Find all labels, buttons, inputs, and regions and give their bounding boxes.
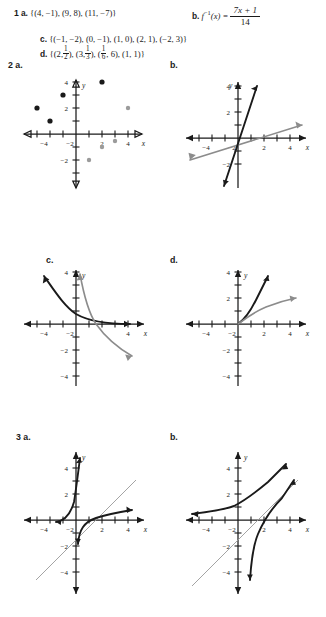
series-2c [43,274,132,361]
gray-inverse-2c [80,274,132,356]
chart-3a: −4 −2 2 4 2 4 −2 −4 x y [18,442,150,602]
chart-2b: −4 −2 2 4 2 4 −2 x y [180,68,312,190]
finv-arrow-down [247,574,253,580]
axes-2a: −4 −2 2 4 2 4 −2 x y [24,79,146,188]
ytick-2: 2 [227,491,231,499]
answer-1d-sep2: ), ( [91,49,101,59]
answer-1-number: 1 [14,8,19,18]
answer-1d-open: {(2, [50,49,63,59]
ytick-4: 4 [227,465,231,473]
dark-arrow-right [124,321,130,327]
dark-arrow-down [223,180,229,186]
answer-1c-letter: c. [40,34,47,44]
ytick-minus4: −4 [61,569,69,577]
ytick-minus2: −2 [61,347,69,355]
group-2d-label: d. [170,255,178,265]
dark-exponential-2c [44,276,130,324]
chart-2a: −4 −2 2 4 2 4 −2 x y [18,72,148,190]
group-2-label: 2 a. [8,60,23,70]
data-point [100,145,104,149]
xtick-4: 4 [126,140,130,148]
data-point [87,158,91,162]
ytick-2: 2 [65,491,69,499]
y-axis-label-2b-text: y [228,81,233,90]
axes-3b: −4 −2 2 4 2 4 −2 −4 x y [186,452,310,594]
ytick-minus2: −2 [223,543,231,551]
data-point [47,118,52,123]
x-axis-label-2b: x [305,143,310,152]
xtick-2: 2 [100,526,104,534]
f-arrow-left [192,511,198,517]
ytick-4: 4 [65,79,69,87]
y-axis-label-3b: y [243,453,248,462]
xtick-minus2: −2 [228,526,236,534]
dark-inverse-3a [78,510,132,544]
ytick-minus4: −4 [61,373,69,381]
ytick-minus4: −4 [223,373,231,381]
y-axis-label-3a: y [81,453,86,462]
dark-power-2d [238,276,268,324]
data-point [113,139,117,143]
group-3-label: 3 a. [16,432,31,442]
ytick-4: 4 [65,465,69,473]
answer-1c: c. {(−1, −2), (0, −1), (1, 0), (2, 1), (… [40,34,187,46]
ytick-2: 2 [65,105,69,113]
group-3-number: 3 [16,432,21,442]
xtick-minus4: −4 [202,526,210,534]
ytick-minus2: −2 [223,347,231,355]
xtick-2: 2 [262,526,266,534]
answer-1d: d. {(2,12), (3,13), (16, 6), (1, 1)} [40,46,145,61]
axes-2d: −4 −2 2 4 2 4 −2 −4 x y [186,269,310,386]
gray-sqrt-2d [238,298,296,324]
xtick-4: 4 [126,330,130,338]
answer-1b: b. f−1(x) = 7x + 1 14 [192,5,260,29]
xtick-4: 4 [288,526,292,534]
answer-1d-sep3: , 6), (1, 1)} [106,49,145,59]
fraction-numerator: 7x + 1 [230,5,260,16]
xtick-minus4: −4 [40,330,48,338]
dark-arrow-up [251,86,257,91]
ytick-2: 2 [227,109,231,117]
axes-2c: −4 −2 4 4 −2 −4 x y [24,269,148,386]
xtick-2: 2 [262,330,266,338]
group-3a-letter: a. [23,432,30,442]
group-3b-label: b. [170,432,178,442]
ytick-4: 4 [65,269,69,277]
dark-line-2b [224,86,257,186]
series-2b [189,86,303,186]
y-axis-label-2d: y [243,271,248,280]
data-point [126,106,130,110]
answer-1c-text: {(−1, −2), (0, −1), (1, 0), (2, 1), (−2,… [49,34,187,44]
ytick-minus2: −2 [61,543,69,551]
xtick-4: 4 [288,144,292,152]
chart-2c: −4 −2 4 4 −2 −4 x y [18,262,150,390]
ytick-4: 4 [227,269,231,277]
xtick-4: 4 [288,330,292,338]
series-3a [36,458,136,580]
xtick-minus2: −2 [228,330,236,338]
x-axis-label-2d: x [305,329,310,338]
inverse-exponent: −1 [204,9,211,16]
xtick-minus4: −4 [40,140,48,148]
xtick-minus2: −2 [66,140,74,148]
xtick-4: 4 [126,526,130,534]
inverse-formula-fraction: 7x + 1 14 [230,5,260,29]
group-2b-label: b. [170,60,178,70]
gray-line-2b [190,125,302,160]
y-axis-label-2a: y [81,81,86,90]
inverse-arrow-right [126,507,132,513]
xtick-minus2: −2 [66,330,74,338]
xtick-minus4: −4 [40,526,48,534]
answer-key-page: 1 a. {(4, −1), (9, 8), (11, −7)} b. f−1(… [0,0,326,617]
answer-1a-letter: a. [21,8,28,18]
ytick-minus4: −4 [223,569,231,577]
axes-2b: −4 −2 2 4 2 4 −2 x y [186,81,310,188]
answer-1d-sep1: ), (3, [69,49,85,59]
answer-1b-letter: b. [192,11,199,21]
chart-2d: −4 −2 2 4 2 4 −2 −4 x y [180,262,312,390]
xtick-minus4: −4 [202,330,210,338]
x-axis-label-3a: x [143,525,148,534]
answer-1a: 1 a. {(4, −1), (9, 8), (11, −7)} [14,8,116,20]
group-2a-letter: a. [15,60,22,70]
xtick-2: 2 [262,144,266,152]
